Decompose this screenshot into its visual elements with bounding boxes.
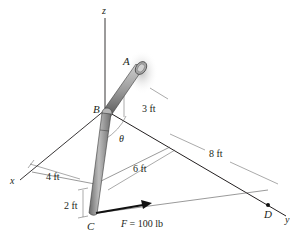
point-d-marker (266, 203, 270, 207)
guide-line-cd (97, 190, 268, 213)
point-b-label: B (93, 103, 100, 115)
dim-3ft-line (150, 88, 168, 99)
point-d-label: D (263, 208, 272, 220)
dim-2ft-label: 2 ft (64, 200, 78, 211)
point-c-label: C (87, 220, 95, 232)
dim-2ft-top (78, 188, 88, 190)
dim-3ft-label: 3 ft (142, 103, 156, 114)
dim-8ft-label: 8 ft (209, 148, 223, 159)
dim-4ft-tick1 (28, 160, 34, 168)
theta-label: θ (119, 133, 124, 144)
point-a-label: A (122, 55, 130, 67)
force-value: = 100 lb (127, 218, 163, 229)
dim-4ft-label: 4 ft (46, 171, 60, 182)
z-axis-label: z (101, 5, 106, 16)
force-arrow-shaft (96, 205, 143, 213)
x-axis (20, 110, 105, 180)
dim-8ft-line-b (230, 162, 278, 184)
x-axis-label: x (9, 175, 15, 186)
dim-8ft-line-a (170, 134, 205, 150)
y-axis-label: y (284, 214, 290, 225)
pipe-assembly-diagram: z x y A B C D θ 3 ft 4 ft 6 ft 8 ft 2 ft… (0, 0, 299, 235)
force-arrow-head (141, 200, 152, 209)
force-label: F = 100 lb (120, 218, 163, 229)
pipe-segment-bc (89, 113, 111, 215)
dim-6ft-label: 6 ft (133, 163, 147, 174)
